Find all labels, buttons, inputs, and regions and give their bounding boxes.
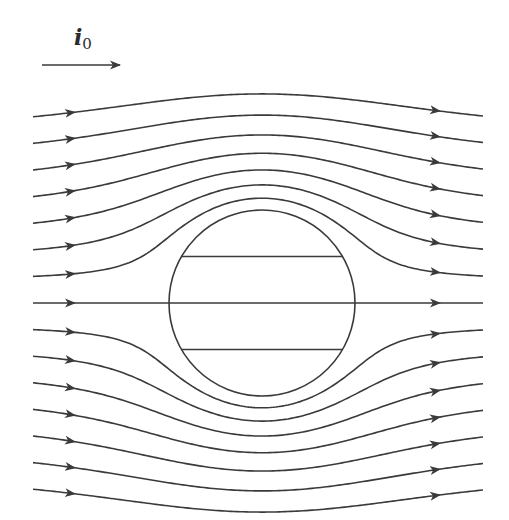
- streamline: [33, 383, 483, 436]
- streamline: [33, 463, 483, 491]
- streamline: [33, 170, 483, 223]
- streamline: [33, 489, 483, 512]
- streamline: [33, 135, 483, 170]
- streamlines: [33, 94, 483, 512]
- streamline: [33, 94, 483, 117]
- streamline: [33, 185, 483, 250]
- streamline: [33, 115, 483, 143]
- streamline: [33, 436, 483, 471]
- flow-diagram: [0, 0, 509, 520]
- streamline: [33, 356, 483, 421]
